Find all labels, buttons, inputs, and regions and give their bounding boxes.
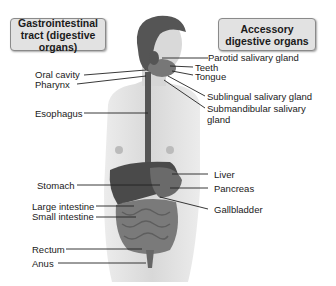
label-sublingual-salivary-gland: Sublingual salivary gland <box>207 91 312 102</box>
label-stomach: Stomach <box>37 180 75 191</box>
header-right-text: Accessory digestive organs <box>219 23 315 47</box>
label-rectum: Rectum <box>32 244 65 255</box>
header-gastrointestinal-tract: Gastrointestinal tract (digestive organs… <box>10 18 106 51</box>
label-submandibular-salivary-gland: Submandibular salivary <box>207 103 306 114</box>
label-small-intestine: Small intestine <box>32 211 94 222</box>
digestive-system-diagram: Gastrointestinal tract (digestive organs… <box>0 0 336 286</box>
header-accessory-organs: Accessory digestive organs <box>218 18 316 51</box>
header-left-text: Gastrointestinal tract (digestive organs… <box>11 17 105 53</box>
label-pancreas: Pancreas <box>214 183 254 194</box>
label-parotid-salivary-gland: Parotid salivary gland <box>208 52 299 63</box>
label-pharynx: Pharynx <box>35 79 70 90</box>
label-esophagus: Esophagus <box>35 108 83 119</box>
label-submandibular-gland-cont: gland <box>207 114 230 125</box>
label-anus: Anus <box>32 258 54 269</box>
esophagus-organ <box>145 72 151 170</box>
label-liver: Liver <box>214 169 235 180</box>
label-gallbladder: Gallbladder <box>214 204 263 215</box>
label-tongue: Tongue <box>195 71 226 82</box>
